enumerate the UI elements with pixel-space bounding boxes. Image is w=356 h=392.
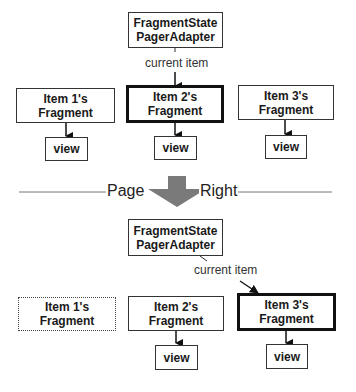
adapter-label-line2: PagerAdapter [133,30,217,44]
fragment-label: Fragment [38,106,93,120]
view-label: view [163,351,189,365]
fragment-label: Item 3's [259,298,314,312]
fragment-label: Fragment [259,103,314,117]
item1-fragment-after-destroyed: Item 1'sFragment [18,297,116,331]
fragment-label: Item 1's [38,92,93,106]
view-label: view [53,142,79,156]
fragment-label: Item 2's [149,300,204,314]
fragment-label: Item 3's [259,89,314,103]
view-label: view [274,350,300,364]
item3-view-after: view [266,344,308,369]
fragment-label: Fragment [40,314,95,328]
fragment-label: Item 2's [148,90,203,104]
adapter-box-before: FragmentStatePagerAdapter [128,12,223,48]
adapter-label-line1: FragmentState [133,224,217,238]
adapter-box-after: FragmentStatePagerAdapter [128,219,223,256]
page-right-arrow-icon [148,176,206,207]
fragment-label: Fragment [149,314,204,328]
item3-view-before: view [265,135,307,159]
item1-view-before: view [45,137,88,161]
item2-fragment-after: Item 2'sFragment [128,296,224,331]
view-label: view [273,140,299,154]
current-item-label: current item [145,56,208,70]
current-item-arrow [240,281,258,293]
right-label: Right [199,182,238,200]
adapter-label-line1: FragmentState [133,16,217,30]
page-label: Page [106,182,145,200]
adapter-tick [200,256,207,261]
fragment-label: Item 1's [40,300,95,314]
item1-fragment-before: Item 1'sFragment [16,88,115,123]
item3-fragment-after-current: Item 3'sFragment [237,293,336,331]
adapter-label-line2: PagerAdapter [133,238,217,252]
fragment-label: Fragment [259,312,314,326]
item2-view-after: view [155,345,198,370]
item2-view-before: view [154,136,197,160]
item2-fragment-before-current: Item 2'sFragment [126,85,224,123]
fragment-label: Fragment [148,104,203,118]
view-label: view [162,141,188,155]
item3-fragment-before: Item 3'sFragment [238,85,334,120]
current-item-label: current item [194,263,257,277]
